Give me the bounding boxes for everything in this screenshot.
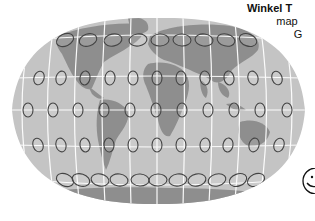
tissot-ellipse <box>23 103 33 117</box>
tissot-ellipse <box>151 103 161 117</box>
tissot-ellipse <box>73 103 83 117</box>
tissot-ellipse <box>128 138 138 152</box>
tissot-ellipse <box>151 34 170 47</box>
tissot-ellipse <box>152 71 162 85</box>
tissot-ellipse <box>177 103 187 117</box>
tissot-ellipse <box>203 103 213 117</box>
tissot-ellipse <box>125 103 135 117</box>
tissot-ellipse <box>173 34 192 47</box>
tissot-ellipse <box>99 103 109 117</box>
caption-title: Winkel T <box>247 2 315 15</box>
tissot-ellipse <box>176 138 186 152</box>
tissot-ellipse <box>282 103 292 117</box>
map-caption: Winkel T map G <box>247 2 315 41</box>
tissot-ellipse <box>131 174 150 187</box>
tissot-ellipse <box>255 103 265 117</box>
tissot-ellipse <box>229 103 239 117</box>
tissot-ellipse <box>152 138 162 152</box>
tissot-ellipse <box>48 103 58 117</box>
smiley-icon <box>300 168 315 194</box>
tissot-ellipse <box>176 71 186 85</box>
caption-line-3: G <box>247 28 315 41</box>
tissot-ellipse <box>149 174 168 187</box>
caption-line-2: map <box>247 15 315 28</box>
tissot-ellipse <box>128 71 138 85</box>
